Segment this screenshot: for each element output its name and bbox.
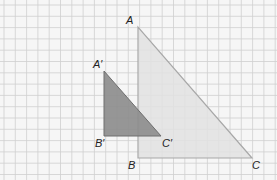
label-c: C [252, 160, 260, 171]
label-b: B [128, 160, 135, 171]
label-c-prime: C′ [162, 138, 172, 149]
label-a-prime: A′ [93, 59, 102, 70]
label-b-prime: B′ [95, 138, 104, 149]
triangle-abc [138, 27, 252, 158]
label-a: A [126, 15, 133, 26]
similar-triangles-figure: A B C A′ B′ C′ [0, 0, 277, 180]
triangles-layer [0, 0, 277, 180]
